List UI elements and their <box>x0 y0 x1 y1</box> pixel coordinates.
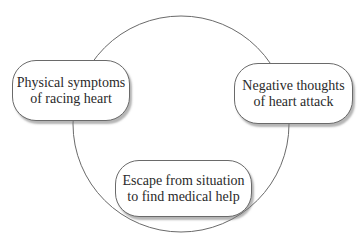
node-negative-thoughts: Negative thoughts of heart attack <box>234 63 353 124</box>
node-physical-symptoms: Physical symptoms of racing heart <box>12 60 130 121</box>
node-text-line: Negative thoughts <box>242 78 344 94</box>
cycle-diagram: Physical symptoms of racing heart Negati… <box>0 0 362 238</box>
node-text-line: of heart attack <box>253 94 333 110</box>
node-escape: Escape from situation to find medical he… <box>115 160 252 217</box>
node-text-line: to find medical help <box>127 189 239 205</box>
node-text-line: of racing heart <box>30 91 112 107</box>
node-text-line: Escape from situation <box>122 173 244 189</box>
node-text-line: Physical symptoms <box>17 75 126 91</box>
